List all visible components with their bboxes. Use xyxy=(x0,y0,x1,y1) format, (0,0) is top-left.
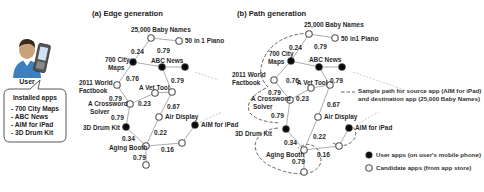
label-city-maps: 700 City xyxy=(269,50,294,58)
edge-weight: 0.79 xyxy=(268,89,281,96)
label-drum-kit: 3D Drum Kit xyxy=(235,130,273,137)
node-aim xyxy=(191,121,199,129)
node-city-maps xyxy=(287,57,295,65)
label-city-maps: 700 City xyxy=(105,56,130,64)
label-piano: 50 in 1 Piano xyxy=(185,37,224,44)
edge-weight: 0.24 xyxy=(289,44,302,51)
node-candidate xyxy=(143,162,149,168)
legend-candidate-app-icon xyxy=(366,165,372,171)
panel-a-title: (a) Edge generation xyxy=(92,9,163,18)
edge-weight: 0.79 xyxy=(133,154,146,161)
edge-weight: 0.24 xyxy=(131,48,144,55)
legend-path-text: Sample path for source app (AIM for iPad… xyxy=(358,87,481,94)
label-city-maps: Maps xyxy=(268,58,285,66)
edge-weight: 0.23 xyxy=(138,100,151,107)
installed-app-item: - AIM for iPad xyxy=(11,121,53,128)
edge-weight: 0.34 xyxy=(284,139,297,146)
panel-edge-generation: (a) Edge generation xyxy=(79,9,238,168)
installed-app-item: - ABC News xyxy=(11,113,48,120)
label-air-display: Air Display xyxy=(324,113,358,121)
node-air-display xyxy=(156,114,162,120)
node-user-app xyxy=(181,63,189,71)
legend-candidate-apps: Candidate apps (from app store) xyxy=(376,164,471,171)
node-baby-names xyxy=(306,31,312,37)
node-drum-kit xyxy=(122,123,130,131)
node-drum-kit xyxy=(282,125,290,133)
node-candidate xyxy=(336,143,342,149)
edge-weight: 0.79 xyxy=(157,47,170,54)
node-candidate xyxy=(169,89,175,95)
label-city-maps: Maps xyxy=(108,64,125,72)
edge-weight: 0.16 xyxy=(317,151,330,158)
label-factbook: Factbook xyxy=(79,87,108,94)
edge-weight: 0.79 xyxy=(292,158,305,165)
user-nodes xyxy=(282,57,353,133)
node-city-maps xyxy=(129,58,137,66)
node-user-app xyxy=(338,63,346,71)
edge-weight: 0.79 xyxy=(271,112,284,119)
edge-weight: 0.67 xyxy=(327,101,340,108)
node-piano xyxy=(332,35,338,41)
node-air-display xyxy=(315,114,321,120)
label-vet-tool: A Vet Tool xyxy=(297,79,328,86)
panel-b-title: (b) Path generation xyxy=(237,9,307,18)
user-label: User xyxy=(19,78,35,85)
node-abc-news xyxy=(158,63,166,71)
label-factbook: Factbook xyxy=(232,79,261,86)
node-factbook xyxy=(114,82,120,88)
phone-icon xyxy=(33,43,51,73)
label-crossword: Solver xyxy=(90,108,110,115)
node-abc-news xyxy=(315,63,323,71)
legend-user-apps: User apps (on user's mobile phone) xyxy=(376,151,481,158)
label-aim: AIM for iPad xyxy=(201,121,238,128)
legend-path-text: and destination app (25,000 Baby Names) xyxy=(358,95,480,102)
installed-apps-title: Installed apps xyxy=(13,94,57,102)
user-icon xyxy=(13,39,51,78)
installed-app-item: - 3D Drum Kit xyxy=(11,129,54,136)
edge-weight: 0.79 xyxy=(111,114,124,121)
edge-weight: 0.67 xyxy=(167,103,180,110)
label-abc-news: ABC News xyxy=(309,56,342,63)
edge-weight: 0.22 xyxy=(154,129,167,136)
label-factbook: 2011 World xyxy=(232,71,266,78)
legend-user-app-icon xyxy=(365,151,372,158)
edge-weight: 0.34 xyxy=(122,135,135,142)
label-baby-names: 25,000 Baby Names xyxy=(131,26,191,34)
edge-weight: 0.79 xyxy=(314,43,327,50)
label-abc-news: ABC News xyxy=(151,57,184,64)
node-candidate xyxy=(179,140,185,146)
node-baby-names xyxy=(148,35,154,41)
label-crossword: A Crossword xyxy=(251,95,291,102)
node-factbook xyxy=(271,77,277,83)
edge-weight: 0.23 xyxy=(296,95,309,102)
label-piano: 50 in1 Piano xyxy=(341,35,378,42)
label-crossword: Solver xyxy=(253,103,273,110)
edge-weight: 0.16 xyxy=(161,146,174,153)
label-drum-kit: 3D Drum Kit xyxy=(83,124,121,131)
label-factbook: 2011 World xyxy=(79,79,113,86)
node-piano xyxy=(176,38,182,44)
figure: User Installed apps - 700 City Maps - AB… xyxy=(0,0,484,192)
label-vet-tool: A Vet Tool xyxy=(139,84,170,91)
node-candidate xyxy=(301,169,307,175)
edge-weight: 0.22 xyxy=(313,133,326,140)
edge-weight: 0.79 xyxy=(171,77,184,84)
edge-weight: 0.79 xyxy=(109,95,122,102)
installed-app-item: - 700 City Maps xyxy=(11,105,59,113)
node-aim xyxy=(345,124,353,132)
label-aim: AIM for iPad xyxy=(355,124,392,131)
connector-line xyxy=(195,72,218,80)
node-crossword xyxy=(127,101,133,107)
edge-weight: 0.79 xyxy=(330,77,343,84)
edge-weight: 0.76 xyxy=(126,75,139,82)
label-baby-names: 25,000 Baby Names xyxy=(304,21,364,29)
label-aging-booth: Aging Booth xyxy=(109,144,147,152)
edge-weight: 0.76 xyxy=(286,77,299,84)
label-air-display: Air Display xyxy=(165,113,199,121)
